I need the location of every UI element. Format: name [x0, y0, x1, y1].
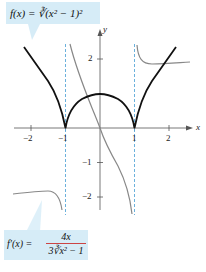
series-fprime-left	[13, 191, 62, 210]
series-fprime-middle	[70, 44, 132, 214]
x-tick-neg1: −1	[58, 133, 68, 143]
y-axis-label: y	[103, 24, 107, 34]
x-axis-arrow-icon	[186, 126, 193, 131]
y-tick-neg1: −1	[82, 157, 92, 167]
x-tick-2: 2	[166, 133, 171, 143]
x-tick-1: 1	[132, 133, 137, 143]
y-axis-arrow-icon	[98, 29, 103, 36]
fprime-function-label: f′(x) = 4x 3∛x² − 1	[4, 230, 88, 260]
callout-pointer-f	[28, 24, 40, 40]
x-tick-neg2: −2	[23, 133, 33, 143]
f-function-label: f(x) = ∛(x² − 1)²	[6, 2, 100, 24]
callout-pointer-fp	[26, 200, 42, 232]
f-formula-text: f(x) = ∛(x² − 1)²	[10, 7, 82, 19]
x-axis-label: x	[196, 122, 200, 132]
fprime-denominator: 3∛x² − 1	[46, 244, 86, 257]
y-tick-2: 2	[88, 53, 93, 63]
series-fprime-right	[137, 45, 190, 64]
y-tick-neg2: −2	[82, 191, 92, 201]
fprime-fraction: 4x 3∛x² − 1	[46, 231, 86, 257]
fprime-prefix: f′(x) =	[7, 238, 32, 249]
fprime-numerator: 4x	[46, 231, 86, 244]
